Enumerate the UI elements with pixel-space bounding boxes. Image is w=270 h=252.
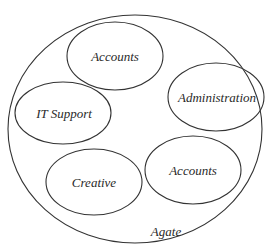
container-label: Agate	[150, 224, 182, 239]
group-accounts-top: Accounts	[67, 22, 163, 90]
group-label: Accounts	[168, 163, 217, 178]
group-it-support: IT Support	[15, 82, 111, 144]
group-accounts-bottom: Accounts	[145, 136, 241, 204]
group-label: Accounts	[90, 49, 139, 64]
group-label: IT Support	[35, 106, 92, 121]
group-administration: Administration	[168, 63, 264, 131]
group-label: Creative	[72, 175, 117, 190]
group-creative: Creative	[46, 149, 142, 215]
organization-diagram: Accounts Administration IT Support Creat…	[0, 0, 270, 252]
group-label: Administration	[177, 90, 256, 105]
